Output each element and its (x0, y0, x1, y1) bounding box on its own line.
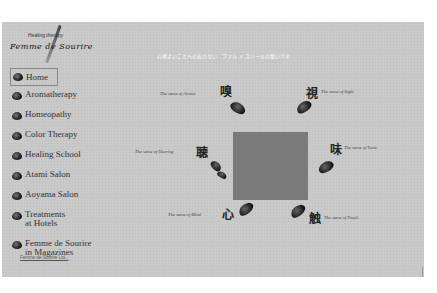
nav-item-in-magazines[interactable]: Femme de Sourirein Magazines (12, 239, 112, 268)
leaf-icon (317, 159, 336, 176)
leaf-icon (237, 200, 256, 218)
kanji-hearing[interactable]: 聴 (196, 143, 208, 160)
sense-label-mind[interactable]: The sense of Mind (168, 212, 201, 217)
footer-company-link[interactable]: Femme de Sourire Ltd... (20, 255, 69, 260)
leaf-bullet-icon (12, 172, 22, 180)
logo-subtitle: Healing therapy (28, 32, 63, 38)
resize-handle[interactable] (422, 267, 427, 277)
leaf-bullet-icon (13, 73, 23, 81)
center-square (233, 132, 308, 200)
leaf-icon (216, 170, 228, 180)
sense-label-hearing[interactable]: The sense of Hearing (135, 149, 173, 154)
main-panel: Healing therapy Femme de Sourire 心地よいことへ… (2, 22, 424, 277)
nav-item-homeopathy[interactable]: Homeopathy (12, 110, 112, 130)
nav-item-aromatherapy[interactable]: Aromatherapy (12, 90, 112, 110)
leaf-bullet-icon (12, 132, 22, 140)
leaf-icon (229, 100, 248, 117)
tagline: 心地よいことへのおさない ファム ド スリールの誓いです (157, 52, 290, 59)
leaf-bullet-icon (12, 212, 22, 220)
kanji-sight[interactable]: 視 (306, 84, 318, 101)
sense-label-touch[interactable]: The sense of Touch (324, 215, 358, 220)
leaf-bullet-icon (12, 152, 22, 160)
kanji-aroma[interactable]: 嗅 (220, 82, 232, 99)
nav-item-atami-salon[interactable]: Atami Salon (12, 170, 112, 190)
nav-item-treatments-at-hotels[interactable]: Treatmentsat Hotels (12, 210, 112, 239)
site-logo[interactable]: Healing therapy Femme de Sourire (8, 28, 118, 62)
leaf-icon (289, 202, 308, 220)
nav-item-aoyama-salon[interactable]: Aoyama Salon (12, 190, 112, 210)
logo-name: Femme de Sourire (10, 42, 93, 51)
sidebar-nav: Home Aromatherapy Homeopathy Color Thera… (12, 68, 112, 268)
kanji-touch[interactable]: 触 (309, 209, 321, 226)
sense-label-taste[interactable]: The sense of Taste (344, 145, 377, 150)
leaf-bullet-icon (12, 92, 22, 100)
nav-item-color-therapy[interactable]: Color Therapy (12, 130, 112, 150)
nav-item-home[interactable]: Home (10, 68, 58, 86)
leaf-bullet-icon (12, 241, 22, 249)
kanji-mind[interactable]: 心 (222, 205, 234, 222)
leaf-bullet-icon (12, 112, 22, 120)
leaf-bullet-icon (12, 192, 22, 200)
sense-label-aroma[interactable]: The sense of Aroma (160, 91, 195, 96)
kanji-taste[interactable]: 味 (330, 140, 342, 157)
nav-item-healing-school[interactable]: Healing School (12, 150, 112, 170)
sense-label-sight[interactable]: The sense of Sight (321, 89, 354, 94)
